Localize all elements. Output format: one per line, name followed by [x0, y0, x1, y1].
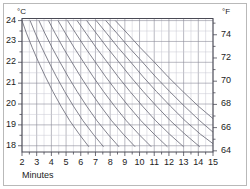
x-axis-tick-label: 13	[176, 157, 192, 167]
y-axis-tick-label-fahrenheit: 72	[221, 52, 237, 62]
y-axis-tick-label-fahrenheit: 66	[221, 122, 237, 132]
y-axis-tick-label-celsius: 21	[0, 77, 16, 87]
y-axis-tick-label-celsius: 19	[0, 119, 16, 129]
fahrenheit-unit-label: °F	[222, 7, 230, 16]
x-axis-title: Minutes	[22, 170, 54, 180]
y-axis-tick-label-celsius: 24	[0, 15, 16, 25]
y-axis-tick-label-fahrenheit: 64	[221, 145, 237, 155]
y-axis-tick-label-fahrenheit: 74	[221, 29, 237, 39]
x-axis-tick-label: 3	[29, 157, 45, 167]
x-axis-tick-label: 14	[190, 157, 206, 167]
x-axis-tick-label: 7	[87, 157, 103, 167]
x-axis-tick-label: 10	[132, 157, 148, 167]
x-axis-tick-label: 8	[102, 157, 118, 167]
x-axis-tick-label: 5	[58, 157, 74, 167]
y-axis-tick-label-fahrenheit: 70	[221, 75, 237, 85]
x-axis-tick-label: 11	[146, 157, 162, 167]
chart-stage: 2423222120191874727068666423456789101112…	[0, 0, 250, 189]
celsius-unit-label: °C	[17, 7, 26, 16]
x-axis-tick-label: 2	[14, 157, 30, 167]
y-axis-tick-label-celsius: 20	[0, 98, 16, 108]
y-axis-tick-label-celsius: 18	[0, 140, 16, 150]
x-axis-tick-label: 15	[205, 157, 221, 167]
y-axis-tick-label-celsius: 23	[0, 35, 16, 45]
y-axis-tick-label-celsius: 22	[0, 56, 16, 66]
x-axis-tick-label: 9	[117, 157, 133, 167]
x-axis-tick-label: 6	[73, 157, 89, 167]
y-axis-tick-label-fahrenheit: 68	[221, 98, 237, 108]
x-axis-tick-label: 12	[161, 157, 177, 167]
x-axis-tick-label: 4	[43, 157, 59, 167]
